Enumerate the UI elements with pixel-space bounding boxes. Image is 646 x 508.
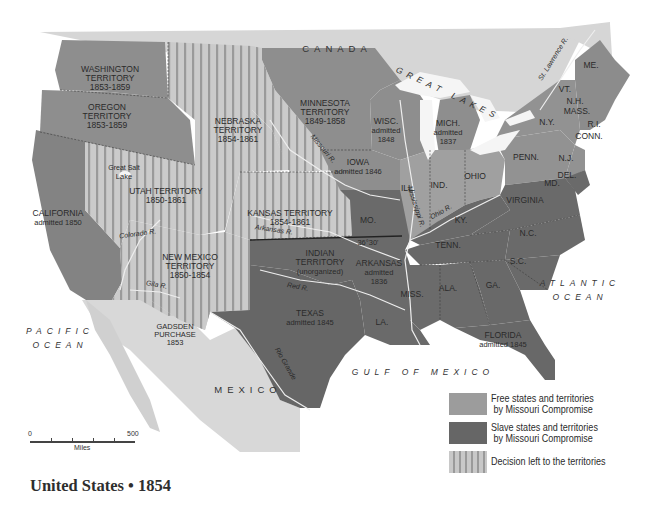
label-washington-territory: WASHINGTON TERRITORY 1853-1859	[81, 65, 139, 92]
label-great-salt-lake-line1: Great Salt	[108, 164, 140, 171]
label-pacific-line1: PACIFIC	[26, 324, 94, 338]
label-michigan: MICH. admitted 1837	[434, 119, 463, 146]
label-texas: TEXAS admitted 1845	[286, 309, 334, 327]
label-rhode-island: R.I.	[587, 120, 600, 129]
legend-swatch-free	[449, 393, 487, 415]
label-missouri: MO.	[360, 216, 376, 225]
label-wisconsin: WISC. admitted 1848	[372, 117, 401, 144]
label-mexico: MEXICO	[214, 384, 281, 395]
legend: Free states and territories by Missouri …	[449, 392, 624, 479]
label-vermont: VT.	[559, 85, 571, 94]
label-pennsylvania: PENN.	[513, 153, 539, 162]
iowa-name: IOWA	[347, 157, 369, 167]
minnesota-line3: 1849-1858	[305, 116, 346, 126]
legend-swatch-slave	[449, 422, 487, 444]
label-atlantic-line1: ATLANTIC	[540, 276, 620, 290]
california-name: CALIFORNIA	[32, 208, 83, 218]
label-utah-territory: UTAH TERRITORY 1850-1861	[129, 187, 203, 205]
legend-text-slave: Slave states and territories by Missouri…	[491, 422, 598, 444]
label-mississippi: MISS.	[400, 290, 423, 299]
legend-item-slave: Slave states and territories by Missouri…	[449, 421, 624, 444]
label-gadsden-purchase: GADSDEN PURCHASE 1853	[154, 323, 196, 347]
california-line2: admitted 1850	[32, 218, 83, 227]
label-indiana: IND.	[431, 181, 448, 190]
label-pacific-line2: OCEAN	[26, 338, 94, 352]
label-new-mexico-territory: NEW MEXICO TERRITORY 1850-1854	[162, 253, 218, 280]
scale-bar: 0 500 Miles	[30, 433, 138, 453]
oregon-line3: 1853-1859	[87, 120, 128, 130]
legend-decision-line1: Decision left to the territories	[491, 456, 605, 467]
label-south-carolina: S.C.	[510, 257, 527, 266]
label-great-salt-lake: Great Salt Lake	[108, 163, 140, 181]
legend-slave-line2: by Missouri Compromise	[491, 433, 598, 444]
iowa-line2: admitted 1846	[334, 167, 382, 176]
michigan-line2: admitted	[434, 128, 463, 137]
label-gulf-of-mexico: GULF OF MEXICO	[352, 365, 494, 379]
label-delaware: DEL.	[558, 171, 577, 180]
scale-tick	[93, 438, 94, 442]
label-kentucky: KY.	[455, 216, 468, 225]
arkansas-name: ARKANSAS	[356, 258, 402, 268]
label-canada: CANADA	[302, 43, 372, 54]
legend-swatch-decision	[449, 451, 487, 473]
florida-name: FLORIDA	[485, 330, 522, 340]
wisconsin-name: WISC.	[374, 116, 399, 126]
label-maine: ME.	[583, 61, 598, 70]
map-title: United States • 1854	[30, 476, 171, 496]
scale-unit: Miles	[74, 444, 90, 451]
scale-line	[30, 441, 135, 443]
indian-line2: TERRITORY	[296, 257, 345, 267]
label-california: CALIFORNIA admitted 1850	[32, 209, 83, 227]
label-oregon-territory: OREGON TERRITORY 1853-1859	[83, 103, 132, 130]
legend-item-decision: Decision left to the territories	[449, 450, 624, 473]
new-mexico-line3: 1850-1854	[170, 270, 211, 280]
label-virginia: VIRGINIA	[506, 196, 543, 205]
scale-start: 0	[28, 430, 32, 437]
label-new-york: N.Y.	[539, 118, 554, 127]
label-atlantic-line2: OCEAN	[540, 290, 620, 304]
label-parallel-36-30: 36°30'	[357, 238, 378, 247]
legend-item-free: Free states and territories by Missouri …	[449, 392, 624, 415]
gadsden-line3: 1853	[167, 338, 184, 347]
label-great-salt-lake-line2: Lake	[108, 172, 140, 181]
label-new-hampshire: N.H.	[567, 97, 584, 106]
label-ohio: OHIO	[464, 172, 486, 181]
arkansas-line2: admitted	[356, 268, 402, 277]
label-louisiana: LA.	[376, 318, 389, 327]
label-atlantic: ATLANTIC OCEAN	[540, 276, 620, 304]
label-iowa: IOWA admitted 1846	[334, 158, 382, 176]
scale-tick	[72, 438, 73, 442]
label-tennessee: TENN.	[435, 241, 461, 250]
texas-line2: admitted 1845	[286, 318, 334, 327]
scale-end: 500	[127, 430, 139, 437]
label-pacific: PACIFIC OCEAN	[26, 324, 94, 352]
washington-line3: 1853-1859	[90, 82, 131, 92]
label-connecticut: CONN.	[575, 132, 602, 141]
legend-text-decision: Decision left to the territories	[491, 456, 605, 467]
wisconsin-line3: 1848	[372, 135, 401, 144]
nebraska-line3: 1854-1861	[218, 134, 259, 144]
utah-line2: 1850-1861	[146, 195, 187, 205]
label-alabama: ALA.	[439, 284, 457, 293]
texas-name: TEXAS	[296, 308, 324, 318]
label-massachusetts: MASS.	[564, 107, 590, 116]
florida-line2: admitted 1845	[479, 340, 527, 349]
wisconsin-line2: admitted	[372, 126, 401, 135]
label-maryland: MD.	[544, 179, 560, 188]
label-florida: FLORIDA admitted 1845	[479, 331, 527, 349]
label-minnesota-territory: MINNESOTA TERRITORY 1849-1858	[300, 99, 350, 126]
indian-line3: (unorganized)	[296, 267, 345, 276]
legend-text-free: Free states and territories by Missouri …	[491, 393, 594, 415]
label-indian-territory: INDIAN TERRITORY (unorganized)	[296, 249, 345, 276]
label-north-carolina: N.C.	[520, 229, 537, 238]
legend-free-line2: by Missouri Compromise	[491, 404, 594, 415]
label-georgia: GA.	[486, 281, 501, 290]
scale-tick	[114, 438, 115, 442]
scale-tick	[51, 438, 52, 442]
michigan-name: MICH.	[436, 118, 460, 128]
new-england	[575, 40, 630, 130]
label-arkansas: ARKANSAS admitted 1836	[356, 259, 402, 286]
label-nebraska-territory: NEBRASKA TERRITORY 1854-1861	[214, 117, 263, 144]
arkansas-line3: 1836	[356, 277, 402, 286]
label-new-jersey: N.J.	[558, 154, 573, 163]
